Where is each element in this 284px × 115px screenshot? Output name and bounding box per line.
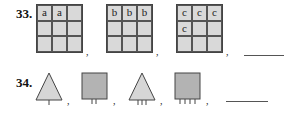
grid-cell: c (192, 5, 207, 21)
grid-cell: c (207, 5, 222, 21)
grid-cell (122, 36, 137, 52)
grid-cell (52, 21, 67, 37)
pattern-grid-2: b b b (106, 4, 153, 53)
grid-cell (107, 21, 122, 37)
grid-cell (192, 21, 207, 37)
separator-comma: , (113, 95, 116, 106)
grid-cell: a (52, 5, 67, 21)
grid-cell (207, 21, 222, 37)
separator-comma: , (206, 95, 209, 106)
grid-cell (192, 36, 207, 52)
grid-cell (137, 21, 152, 37)
separator-comma: , (160, 95, 163, 106)
separator-comma: , (226, 46, 229, 57)
pattern-grid-3: c c c c (176, 4, 223, 53)
grid-cell (67, 5, 82, 21)
pattern-grid-1: a a (36, 4, 83, 53)
triangle-3-ticks-icon (127, 72, 157, 106)
grid-cell (67, 21, 82, 37)
grid-cell (67, 36, 82, 52)
grid-cell (52, 36, 67, 52)
problem-33-number: 33. (16, 6, 32, 22)
grid-cell (177, 36, 192, 52)
square-4-ticks-icon (174, 72, 202, 106)
problem-34-number: 34. (16, 75, 32, 91)
grid-cell (207, 36, 222, 52)
square-2-ticks-icon (81, 72, 109, 106)
grid-cell: b (137, 5, 152, 21)
grid-cell (122, 21, 137, 37)
grid-cell: b (107, 5, 122, 21)
grid-cell (37, 21, 52, 37)
separator-comma: , (86, 46, 89, 57)
grid-cell: a (37, 5, 52, 21)
separator-comma: , (156, 46, 159, 57)
separator-comma: , (67, 95, 70, 106)
grid-cell: c (177, 5, 192, 21)
grid-cell: b (122, 5, 137, 21)
triangle-1-tick-icon (34, 72, 64, 106)
grid-cell (37, 36, 52, 52)
grid-cell (107, 36, 122, 52)
answer-blank-33[interactable] (244, 55, 284, 56)
grid-cell (137, 36, 152, 52)
grid-cell: c (177, 21, 192, 37)
answer-blank-34[interactable] (226, 101, 268, 102)
